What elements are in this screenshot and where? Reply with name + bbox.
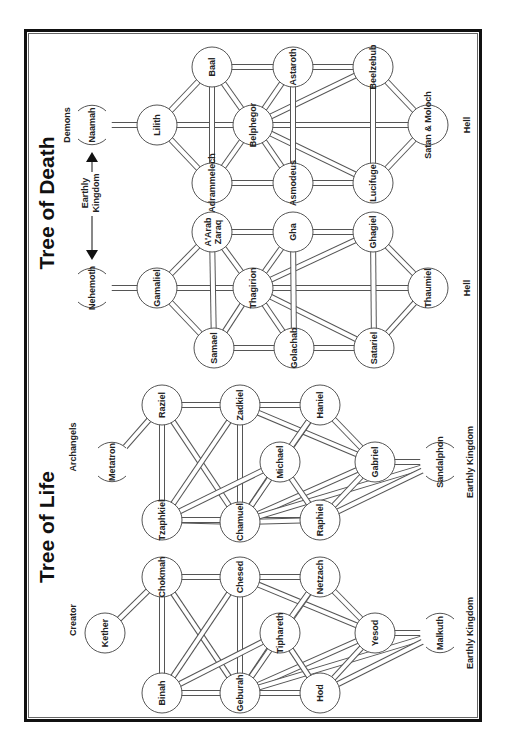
node-ghagiel: Ghagiel (353, 212, 393, 252)
node-label: Netzach (315, 560, 325, 595)
node-gha: Gha (273, 212, 313, 252)
title-tree-of-life: Tree of Life (35, 471, 58, 583)
node-gabriel: Gabriel (355, 442, 395, 482)
node-label: Chesed (235, 561, 245, 594)
node-label: Ghagiel (368, 215, 378, 248)
node-golachab: Golachab (274, 327, 314, 369)
node-label: Metatron (107, 443, 117, 481)
node-thaumiel: Thaumiel (408, 268, 448, 308)
label-kingdom: Kingdom (91, 174, 101, 213)
node-lilith: Lilith (137, 105, 177, 145)
label-demons: Demons (62, 107, 72, 143)
node-label: Beelzebub (368, 44, 378, 90)
channels (92, 67, 440, 693)
node-gamaliel: Gamaliel (137, 268, 177, 308)
node-label: Malkuth (435, 616, 445, 650)
label-hell-demons: Hell (462, 117, 472, 134)
node-nehemoth: Nehemoth (72, 266, 112, 310)
node-raziel: Raziel (142, 385, 182, 425)
node-geburah: Geburah (220, 673, 260, 713)
node-zadkiel: Zadkiel (220, 385, 260, 425)
node-label: Sandalphon (435, 436, 445, 488)
node-label: Raphiel (315, 504, 325, 537)
node-label: Gha (288, 222, 298, 240)
node-label: Lucifuge (368, 164, 378, 202)
node-label: Tzaphkiel (157, 499, 167, 540)
node-kether: Kether (85, 613, 125, 653)
node-label: Michael (275, 445, 285, 478)
node-hod: Hod (300, 673, 340, 713)
node-tiphareth: Tiphareth (260, 613, 300, 654)
node-label: Gamaliel (152, 269, 162, 307)
node-binah: Binah (142, 673, 182, 713)
node-label: Gabriel (370, 446, 380, 477)
node-label: Satariel (369, 332, 379, 365)
node-label: Geburah (235, 674, 245, 711)
arrow-to-naamah-icon (86, 152, 98, 172)
node-label: Lilith (152, 114, 162, 136)
node-sandalphon: Sandalphon (420, 436, 460, 488)
trees-diagram: NaamahLilithBaalAdrammelechBelphegorAsta… (0, 0, 506, 744)
node-samael: Samael (194, 328, 234, 368)
node-label: Raziel (157, 392, 167, 418)
node-label: Haniel (315, 391, 325, 418)
node-naamah: Naamah (72, 105, 112, 145)
node-label: Zaraq (213, 220, 223, 245)
node-label: Hod (315, 684, 325, 702)
node-label: Adrammelech (207, 153, 217, 213)
node-yesod: Yesod (355, 613, 395, 653)
node-michael: Michael (260, 442, 300, 482)
node-chokmah: Chokmah (142, 556, 182, 597)
node-thagirion: Thagirion (233, 268, 273, 309)
label-earthly-kingdom-sephiroth: Earthly Kingdom (465, 597, 475, 669)
node-tzaphkiel: Tzaphkiel (142, 499, 182, 540)
label-earthly-kingdom-archangels: Earthly Kingdom (465, 426, 475, 498)
node-label: Satan & Moloch (423, 91, 433, 159)
node-chesed: Chesed (220, 557, 260, 597)
node-metatron: Metatron (92, 442, 132, 482)
arrow-to-nehemoth-icon (86, 216, 98, 260)
node-baal: Baal (192, 47, 232, 87)
node-satariel: Satariel (354, 328, 394, 368)
node-label: Binah (157, 680, 167, 705)
node-raphiel: Raphiel (300, 500, 340, 540)
label-creator: Creator (68, 604, 78, 637)
node-label: Kether (100, 618, 110, 647)
label-archangels: Archangels (68, 422, 78, 471)
node-label: Thagirion (248, 268, 258, 309)
node-aarab: A'ArabZaraq (192, 212, 232, 252)
node-label: Thaumiel (423, 268, 433, 308)
node-label: Golachab (289, 327, 299, 369)
node-astaroth: Astaroth (273, 47, 313, 87)
label-hell-qliphoth: Hell (462, 280, 472, 297)
node-label: Astaroth (288, 48, 298, 85)
node-label: Tiphareth (275, 613, 285, 654)
node-netzach: Netzach (300, 557, 340, 597)
node-haniel: Haniel (300, 385, 340, 425)
node-label: Belphegor (248, 102, 258, 147)
node-label: Zadkiel (235, 389, 245, 420)
node-satan: Satan & Moloch (408, 91, 448, 159)
title-tree-of-death: Tree of Death (35, 136, 58, 269)
node-label: Baal (207, 57, 217, 76)
node-chamuel: Chamuel (220, 502, 260, 542)
node-label: Chokmah (157, 556, 167, 597)
node-label: Chamuel (235, 503, 245, 541)
node-label: Asmodeus (288, 160, 298, 206)
node-label: Samael (209, 332, 219, 364)
node-label: Yesod (370, 620, 380, 647)
label-earthly: Earthly (80, 178, 90, 209)
node-label: Nehemoth (87, 266, 97, 310)
node-malkuth: Malkuth (420, 613, 460, 653)
node-label: Naamah (87, 107, 97, 142)
node-label: A'Arab (203, 217, 213, 247)
node-lucifuge: Lucifuge (353, 163, 393, 203)
